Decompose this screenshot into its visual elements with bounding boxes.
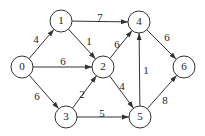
edge-3-to-2: 2 — [73, 76, 97, 108]
node-label: 6 — [181, 60, 187, 72]
edge-2-to-5: 4 — [110, 76, 134, 108]
node-label: 0 — [19, 60, 25, 72]
arrow-icon — [139, 33, 140, 106]
node-4: 4 — [128, 11, 150, 33]
edge-1-to-4: 7 — [72, 11, 128, 23]
edge-weight-label: 4 — [33, 33, 39, 45]
edge-0-to-2: 6 — [33, 55, 92, 67]
edge-weight-label: 6 — [60, 55, 66, 67]
edge-weight-label: 8 — [162, 94, 168, 106]
node-label: 3 — [63, 110, 69, 122]
graph-diagram: 466176425168 0123456 — [0, 0, 205, 136]
edge-weight-label: 6 — [114, 38, 120, 50]
edge-weight-label: 1 — [86, 35, 92, 47]
edge-weight-label: 6 — [164, 31, 170, 43]
edge-0-to-1: 4 — [29, 29, 54, 58]
edge-5-to-6: 8 — [147, 75, 176, 108]
node-2: 2 — [92, 56, 114, 78]
arrow-icon — [147, 30, 176, 59]
edge-0-to-3: 6 — [29, 75, 58, 108]
edge-5-to-4: 1 — [139, 33, 149, 106]
edge-weight-label: 4 — [119, 80, 125, 92]
node-label: 4 — [136, 15, 142, 27]
arrow-icon — [110, 31, 132, 59]
node-label: 2 — [100, 60, 106, 72]
edge-4-to-6: 6 — [147, 30, 176, 59]
node-0: 0 — [11, 56, 33, 78]
node-label: 5 — [137, 110, 143, 122]
edge-weight-label: 2 — [79, 88, 85, 100]
node-6: 6 — [173, 56, 195, 78]
node-5: 5 — [129, 106, 151, 128]
node-label: 1 — [58, 14, 64, 26]
edge-1-to-2: 1 — [68, 29, 95, 59]
edge-weight-label: 6 — [34, 90, 40, 102]
edge-weight-label: 1 — [143, 64, 149, 76]
node-1: 1 — [50, 10, 72, 32]
edge-3-to-5: 5 — [77, 107, 129, 119]
edge-weight-label: 7 — [97, 11, 103, 23]
node-3: 3 — [55, 106, 77, 128]
edge-2-to-4: 6 — [110, 31, 132, 59]
edge-weight-label: 5 — [99, 107, 105, 119]
